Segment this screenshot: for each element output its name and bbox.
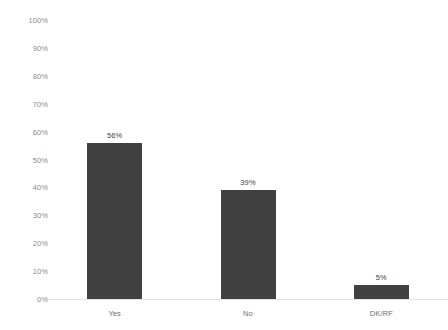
y-tick-label: 10% [2,267,48,276]
y-tick-label: 40% [2,183,48,192]
bar-chart: 0%10%20%30%40%50%60%70%80%90%100% 56%Yes… [0,0,448,330]
bar-value-label: 5% [376,273,387,282]
bar-value-label: 56% [107,131,122,140]
y-tick-label: 60% [2,127,48,136]
bar-dk-rf[interactable] [354,285,409,299]
y-tick-label: 100% [2,16,48,25]
y-tick-label: 90% [2,43,48,52]
y-tick-label: 30% [2,211,48,220]
x-axis-baseline [48,299,448,300]
y-tick-label: 0% [2,295,48,304]
category-label-dk-rf: DK/RF [370,309,393,318]
y-tick-label: 80% [2,71,48,80]
plot-area: 56%Yes39%No5%DK/RF [48,0,448,330]
category-label-no: No [243,309,253,318]
bar-yes[interactable] [87,143,142,299]
bar-group: 5% [354,285,409,299]
y-tick-label: 20% [2,239,48,248]
y-tick-label: 50% [2,155,48,164]
bar-no[interactable] [221,190,276,299]
category-label-yes: Yes [108,309,121,318]
bar-group: 39% [221,190,276,299]
bar-group: 56% [87,143,142,299]
bar-value-label: 39% [240,178,255,187]
y-axis: 0%10%20%30%40%50%60%70%80%90%100% [0,0,52,330]
y-tick-label: 70% [2,99,48,108]
